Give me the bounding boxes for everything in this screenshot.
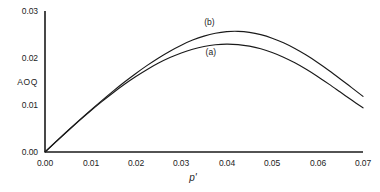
x-tick-label-3: 0.03 bbox=[173, 158, 189, 168]
axis-lines bbox=[45, 11, 363, 152]
curve-label-a: (a) bbox=[206, 47, 216, 57]
x-tick-label-1: 0.01 bbox=[83, 158, 99, 168]
x-tick-label-6: 0.06 bbox=[310, 158, 326, 168]
y-tick-label-3: 0.03 bbox=[6, 6, 38, 16]
y-tick-label-0: 0.00 bbox=[6, 147, 38, 157]
y-tick-label-2: 0.02 bbox=[6, 53, 38, 63]
x-tick-label-5: 0.05 bbox=[264, 158, 280, 168]
x-tick-label-0: 0.00 bbox=[37, 158, 53, 168]
curve-b bbox=[45, 31, 363, 152]
y-axis-title: AOQ bbox=[6, 77, 38, 87]
aoq-curve-chart: 0.03 0.02 0.01 0.00 AOQ 0.00 0.01 0.02 0… bbox=[0, 0, 380, 192]
x-axis-title: p' bbox=[189, 172, 196, 183]
curves-group bbox=[45, 31, 363, 152]
curve-label-b: (b) bbox=[204, 17, 214, 27]
x-tick-label-4: 0.04 bbox=[219, 158, 235, 168]
x-tick-label-7: 0.07 bbox=[355, 158, 371, 168]
y-tick-label-1: 0.01 bbox=[6, 100, 38, 110]
x-tick-label-2: 0.02 bbox=[128, 158, 144, 168]
